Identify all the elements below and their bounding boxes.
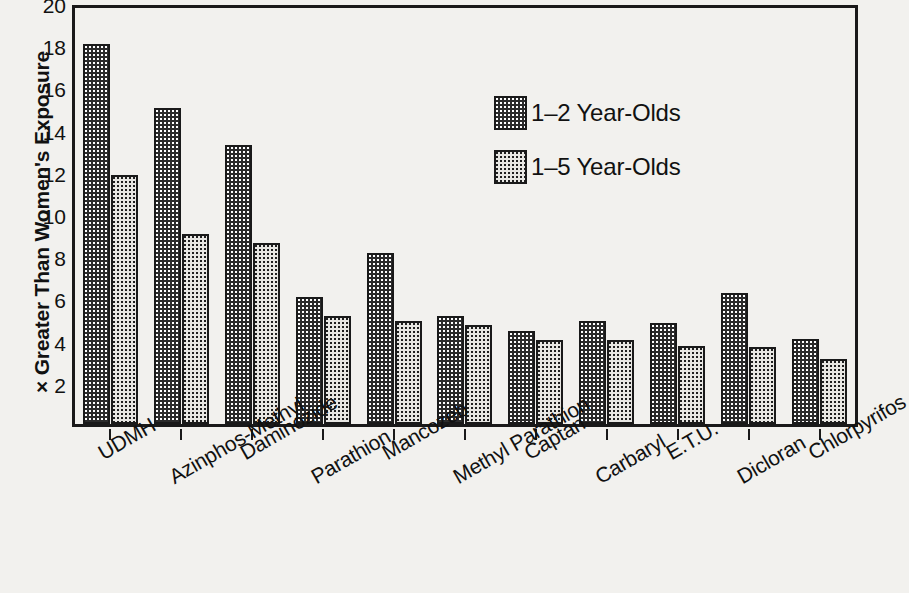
bar-1-5-year-olds xyxy=(607,340,634,424)
bar-1-2-year-olds xyxy=(792,339,819,424)
bar-1-5-year-olds xyxy=(678,346,705,424)
plot-area xyxy=(75,8,855,424)
y-axis-tick-label: 2 xyxy=(18,374,66,395)
y-axis-tick-label: 14 xyxy=(18,121,66,142)
bar-1-2-year-olds xyxy=(83,44,110,424)
legend-label-1-2-year-olds: 1–2 Year-Olds xyxy=(531,99,681,127)
bar-group xyxy=(713,8,784,424)
bar-1-5-year-olds xyxy=(111,175,138,424)
bar-1-2-year-olds xyxy=(721,293,748,424)
bar-1-2-year-olds xyxy=(650,323,677,424)
bar-group xyxy=(784,8,855,424)
bar-1-2-year-olds xyxy=(367,253,394,424)
bar-1-2-year-olds xyxy=(508,331,535,424)
bar-group xyxy=(642,8,713,424)
y-axis-tick-labels: 2018161412108642 xyxy=(18,0,66,440)
y-axis-tick-label: 16 xyxy=(18,79,66,100)
y-axis-tick-label: 8 xyxy=(18,248,66,269)
x-axis-tick-mark xyxy=(748,429,750,440)
y-axis-tick-label: 20 xyxy=(18,0,66,16)
legend-swatch-1-2-year-olds xyxy=(494,96,527,130)
bar-1-2-year-olds xyxy=(154,108,181,425)
bar-1-5-year-olds xyxy=(253,243,280,424)
bar-group xyxy=(288,8,359,424)
y-axis-tick-label: 12 xyxy=(18,163,66,184)
legend-swatch-1-5-year-olds xyxy=(494,150,527,184)
bar-group xyxy=(359,8,430,424)
bar-1-5-year-olds xyxy=(820,359,847,424)
bar-1-5-year-olds xyxy=(395,321,422,424)
x-axis-tick-mark xyxy=(322,429,324,440)
x-axis-tick-mark xyxy=(606,429,608,440)
bar-1-5-year-olds xyxy=(182,234,209,424)
legend-item: 1–5 Year-Olds xyxy=(494,150,681,184)
bar-group xyxy=(430,8,501,424)
y-axis-tick-label: 18 xyxy=(18,37,66,58)
y-axis-tick-label: 6 xyxy=(18,290,66,311)
legend-item: 1–2 Year-Olds xyxy=(494,96,681,130)
bar-group xyxy=(75,8,146,424)
plot-frame xyxy=(72,5,858,427)
bar-1-5-year-olds xyxy=(465,325,492,424)
x-axis-tick-mark xyxy=(464,429,466,440)
bar-group xyxy=(500,8,571,424)
x-axis-label: Parathion xyxy=(307,424,395,488)
legend: 1–2 Year-Olds 1–5 Year-Olds xyxy=(494,96,681,204)
bar-group xyxy=(217,8,288,424)
x-axis-tick-mark xyxy=(180,429,182,440)
bar-group xyxy=(146,8,217,424)
bar-1-5-year-olds xyxy=(749,347,776,424)
legend-label-1-5-year-olds: 1–5 Year-Olds xyxy=(531,153,681,181)
bar-1-2-year-olds xyxy=(225,145,252,424)
y-axis-tick-label: 10 xyxy=(18,206,66,227)
bar-group xyxy=(571,8,642,424)
x-axis-label: Dicloran xyxy=(733,431,810,489)
y-axis-tick-label: 4 xyxy=(18,332,66,353)
x-axis-label: Carbaryl xyxy=(591,430,670,489)
